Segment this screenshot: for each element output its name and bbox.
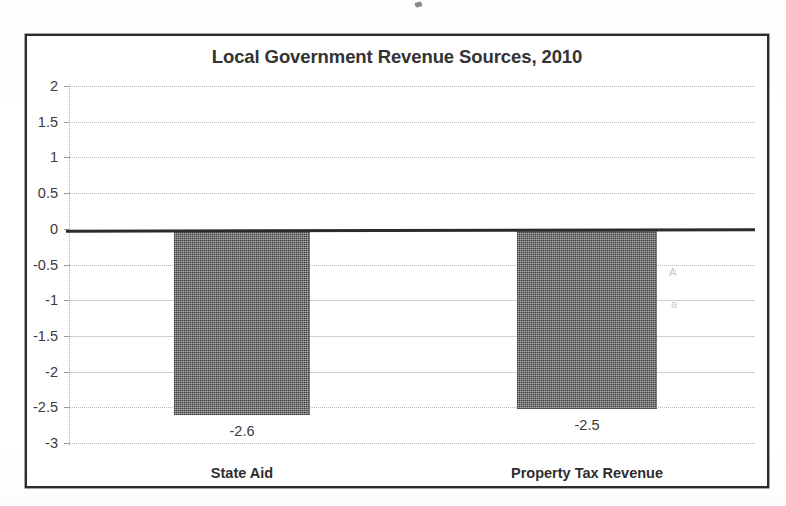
y-axis-label--0.5: -0.5 bbox=[33, 257, 58, 273]
gridline-1 bbox=[69, 157, 755, 159]
gridline-1.5 bbox=[69, 122, 755, 124]
y-tick-0.5 bbox=[64, 193, 69, 194]
bar-value-state-aid: -2.6 bbox=[230, 423, 255, 439]
y-axis-label--2.5: -2.5 bbox=[33, 399, 58, 415]
y-axis-label-0: 0 bbox=[50, 221, 58, 237]
y-axis-label--2: -2 bbox=[45, 364, 58, 380]
chart-frame: Local Government Revenue Sources, 2010 2… bbox=[25, 34, 769, 488]
y-tick--1.5 bbox=[64, 336, 69, 337]
y-axis-label--3: -3 bbox=[45, 435, 58, 451]
y-axis-label--1: -1 bbox=[45, 292, 58, 308]
plot-area: 2 1.5 1 0.5 0 -0.5 -1 -1.5 -2 -2.5 -3 A … bbox=[69, 86, 755, 443]
category-label-property-tax-revenue: Property Tax Revenue bbox=[511, 465, 663, 481]
y-axis-line bbox=[69, 84, 71, 445]
scan-artifact-speck bbox=[414, 1, 422, 8]
y-tick--1 bbox=[64, 300, 69, 301]
y-axis-label--1.5: -1.5 bbox=[33, 328, 58, 344]
y-axis-label-1.5: 1.5 bbox=[38, 114, 58, 130]
y-tick--3 bbox=[64, 443, 69, 444]
gridline-0.5 bbox=[69, 193, 755, 195]
bar-value-property-tax-revenue: -2.5 bbox=[575, 417, 600, 433]
y-tick-1.5 bbox=[64, 122, 69, 123]
gridline--3 bbox=[69, 443, 755, 445]
y-tick--2.5 bbox=[64, 407, 69, 408]
y-axis-label-2: 2 bbox=[50, 78, 58, 94]
y-tick--2 bbox=[64, 372, 69, 373]
y-axis-label-0.5: 0.5 bbox=[38, 185, 58, 201]
y-tick--0.5 bbox=[64, 265, 69, 266]
y-axis-label-1: 1 bbox=[50, 149, 58, 165]
chart-title: Local Government Revenue Sources, 2010 bbox=[27, 46, 767, 68]
scan-artifact-smudge-top: A bbox=[669, 266, 677, 278]
bar-state-aid[interactable] bbox=[174, 231, 310, 415]
y-tick-2 bbox=[64, 86, 69, 87]
y-tick-1 bbox=[64, 157, 69, 158]
bar-property-tax-revenue[interactable] bbox=[517, 231, 657, 409]
gridline-2 bbox=[69, 86, 755, 88]
category-label-state-aid: State Aid bbox=[211, 465, 273, 481]
